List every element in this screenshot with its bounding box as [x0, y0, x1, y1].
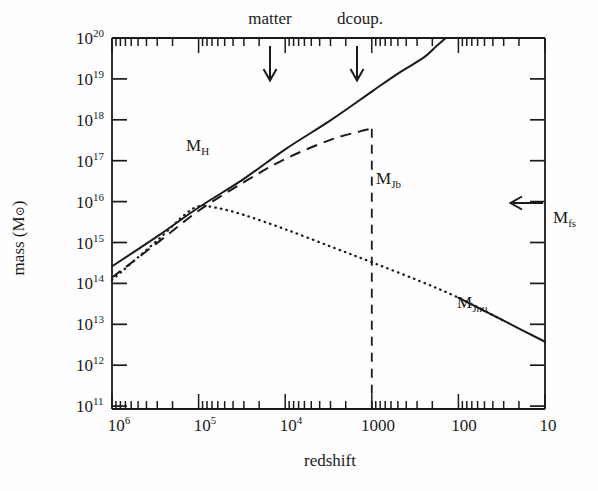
x-tick-label-1e5: 105: [194, 417, 217, 434]
y-tick-label-1e20: 1020: [76, 30, 104, 47]
curve-m-jnu-dotted: [112, 206, 504, 321]
y-tick-label-1e19: 1019: [76, 70, 104, 87]
x-tick-label-100: 100: [451, 417, 477, 434]
annotation-arrow-mfs: [511, 197, 544, 210]
y-tick-label-1e11: 1011: [76, 398, 104, 415]
curve-label-m-jb: MJb: [376, 170, 401, 187]
curve-label-m-fs: Mfs: [553, 209, 576, 226]
y-major-ticks-right: [530, 38, 545, 406]
y-tick-label-1e18: 1018: [76, 111, 104, 128]
y-tick-label-1e16: 1016: [76, 193, 104, 210]
curve-label-m-jnu: MJnu: [457, 294, 487, 311]
x-tick-label-10: 10: [540, 417, 557, 434]
x-tick-label-1e6: 106: [108, 417, 131, 434]
y-tick-label-1e12: 1012: [76, 357, 104, 374]
x-ticks-bottom: [112, 394, 545, 409]
curve-m-h: [112, 38, 446, 266]
annotation-label-matter: matter: [248, 10, 291, 27]
sun-symbol-icon: ⊙: [13, 206, 27, 216]
y-tick-label-1e13: 1013: [76, 316, 104, 333]
y-tick-label-1e17: 1017: [76, 152, 104, 169]
figure-root: 1020 1019 1018 1017 1016 1015 1014 1013 …: [0, 0, 598, 491]
annotation-arrow-dcoup: [351, 46, 364, 81]
curve-label-m-h: MH: [186, 137, 209, 154]
x-tick-label-1e4: 104: [280, 417, 303, 434]
annotation-label-dcoup: dcoup.: [337, 10, 383, 27]
y-major-ticks-left: [112, 38, 127, 406]
y-axis-title: mass (M⊙): [10, 201, 27, 276]
curve-m-jb: [112, 129, 372, 278]
x-ticks-top: [112, 38, 545, 53]
y-tick-label-1e14: 1014: [76, 275, 104, 292]
x-axis-title: redshift: [304, 452, 356, 469]
annotation-arrow-matter: [264, 46, 277, 81]
y-tick-label-1e15: 1015: [76, 234, 104, 251]
x-tick-label-1000: 1000: [361, 417, 395, 434]
